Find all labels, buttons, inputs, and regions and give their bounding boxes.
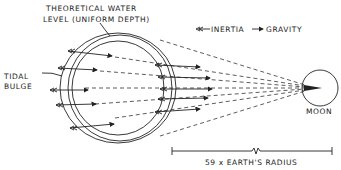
gravity-lines (85, 40, 305, 136)
tidal-forces-diagram: THEORETICAL WATER LEVEL (UNIFORM DEPTH) … (0, 0, 341, 170)
legend-inertia: INERTIA (211, 25, 245, 34)
legend-gravity: GRAVITY (266, 25, 302, 34)
distance-scale (172, 147, 332, 155)
theoretical-label-2: LEVEL (UNIFORM DEPTH) (43, 15, 150, 24)
right-arrows (155, 63, 212, 114)
tidal-label-2: BULGE (4, 82, 32, 91)
moon-label: MOON (306, 107, 332, 116)
moon (302, 70, 338, 106)
theoretical-label-1: THEORETICAL WATER (45, 4, 137, 13)
tidal-leader-line (42, 73, 62, 76)
distance-label: 59 x EARTH'S RADIUS (205, 158, 297, 167)
tidal-label-1: TIDAL (3, 72, 29, 81)
